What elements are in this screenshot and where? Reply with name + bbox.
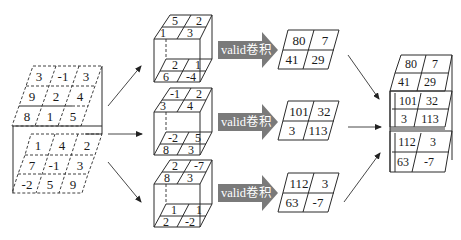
kernel-cell: 3 <box>187 171 193 185</box>
input-top-cell: 3 <box>83 69 90 84</box>
kernel-cell: 8 <box>164 171 170 185</box>
kernel-cell: 3 <box>160 99 166 113</box>
arrow-icon <box>108 66 141 106</box>
stack-cell: 63 <box>397 155 409 169</box>
kernel-cell: 2 <box>196 14 202 28</box>
input-front-cell: 2 <box>84 138 91 153</box>
merge-arrows <box>344 55 381 202</box>
output-cell: 113 <box>308 123 327 138</box>
output-cell: 29 <box>312 52 325 67</box>
kernel-cell: 2 <box>163 215 169 229</box>
input-top-cell: -1 <box>58 69 69 84</box>
output-map-3: 112 3 63 -7 <box>278 173 339 212</box>
output-cell: 63 <box>286 195 299 210</box>
input-front-cell: 3 <box>77 158 84 173</box>
operation-label: valid卷积 <box>221 185 272 200</box>
stack-cell: 7 <box>432 57 438 71</box>
kernel-box-3: 2 -7 8 3 1 1 2 -2 <box>154 159 212 229</box>
output-cell: 3 <box>289 123 296 138</box>
stack-cell: 3 <box>430 135 436 149</box>
output-cell: -7 <box>313 195 324 210</box>
kernel-cell: 2 <box>196 87 202 101</box>
stack-cell: 29 <box>424 75 436 89</box>
kernel-cell: 3 <box>187 26 193 40</box>
stack-cell: 113 <box>421 112 439 126</box>
output-map-1: 80 7 41 29 <box>278 30 339 69</box>
output-cell: 41 <box>286 52 299 67</box>
arrow-icon <box>108 162 141 202</box>
kernel-cell: 1 <box>196 203 202 217</box>
input-tensor: 3 -1 3 9 2 4 8 1 5 1 4 2 7 -1 3 -2 5 9 <box>12 66 102 193</box>
input-front-cell: 4 <box>59 138 66 153</box>
valid-conv-arrow-3: valid卷积 <box>218 175 278 211</box>
output-cell: 112 <box>289 176 308 191</box>
output-cell: 7 <box>322 33 329 48</box>
kernel-cell: 6 <box>163 70 169 84</box>
stack-cell: 80 <box>405 57 417 71</box>
kernel-cell: -2 <box>168 131 178 145</box>
kernel-cell: -4 <box>186 70 196 84</box>
stack-cell: 32 <box>426 94 438 108</box>
kernel-cell: 3 <box>188 143 194 157</box>
kernel-cell: 4 <box>187 99 193 113</box>
operation-label: valid卷积 <box>221 114 272 129</box>
output-cell: 101 <box>289 104 309 119</box>
input-top-cell: 3 <box>36 69 43 84</box>
convolution-diagram: 3 -1 3 9 2 4 8 1 5 1 4 2 7 -1 3 -2 5 9 <box>0 0 461 240</box>
input-front-cell: 7 <box>29 158 36 173</box>
arrow-icon <box>344 153 380 202</box>
kernel-cell: 2 <box>172 58 178 72</box>
input-front-cell: -1 <box>49 158 60 173</box>
input-front-cell: 9 <box>70 177 77 192</box>
kernel-cell: 1 <box>160 26 166 40</box>
stack-cell: 101 <box>399 94 417 108</box>
valid-conv-arrow-1: valid卷积 <box>218 32 278 68</box>
kernel-cell: 2 <box>172 159 178 173</box>
kernel-cell: 8 <box>163 143 169 157</box>
output-map-2: 101 32 3 113 <box>278 101 339 140</box>
valid-conv-arrow-2: valid卷积 <box>218 104 278 140</box>
output-cell: 32 <box>318 104 331 119</box>
input-top-cell: 8 <box>24 109 31 124</box>
stack-cell: 3 <box>401 112 407 126</box>
input-front-cell: -2 <box>22 177 33 192</box>
stack-cell: -7 <box>424 155 434 169</box>
kernel-cell: 1 <box>171 203 177 217</box>
kernel-cell: -7 <box>194 159 204 173</box>
output-cell: 3 <box>322 176 329 191</box>
input-top-cell: 2 <box>53 89 60 104</box>
input-top-cell: 1 <box>47 109 54 124</box>
split-arrows <box>108 66 142 202</box>
kernel-box-1: 5 2 1 3 2 1 6 -4 <box>154 14 212 84</box>
kernel-cell: 5 <box>172 14 178 28</box>
output-cell: 80 <box>293 33 306 48</box>
kernel-cell: -1 <box>170 87 180 101</box>
input-front-cell: 5 <box>47 177 54 192</box>
stack-cell: 41 <box>398 75 410 89</box>
stack-cell: 112 <box>398 135 416 149</box>
kernel-cell: 5 <box>195 131 201 145</box>
input-front-cell: 1 <box>35 138 42 153</box>
stacked-output: 80 7 41 29 101 32 3 113 112 3 63 -7 <box>390 55 452 172</box>
kernel-box-2: -1 2 3 4 -2 5 8 3 <box>154 87 212 157</box>
operation-label: valid卷积 <box>221 42 272 57</box>
input-top-cell: 5 <box>70 109 77 124</box>
input-top-cell: 4 <box>77 89 84 104</box>
kernel-cell: -2 <box>185 215 195 229</box>
arrow-icon <box>348 55 379 99</box>
input-top-cell: 9 <box>29 89 36 104</box>
